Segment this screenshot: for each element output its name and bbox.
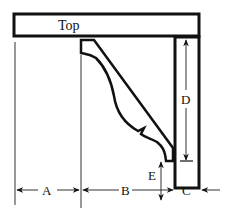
label-a: A [42,183,52,198]
top-board: Top [14,14,199,36]
dimension-b: B [83,183,173,198]
label-e: E [148,168,156,183]
dimension-e: E [148,162,161,200]
label-c: C [182,183,191,198]
label-b: B [121,183,130,198]
vertical-support [175,37,199,188]
dimension-c: C [182,183,220,198]
bracket-profile [81,40,173,161]
bracket-diagram: Top A B C D E [0,0,231,223]
top-label: Top [58,18,80,33]
dimension-a: A [17,183,79,198]
label-d: D [181,92,190,107]
